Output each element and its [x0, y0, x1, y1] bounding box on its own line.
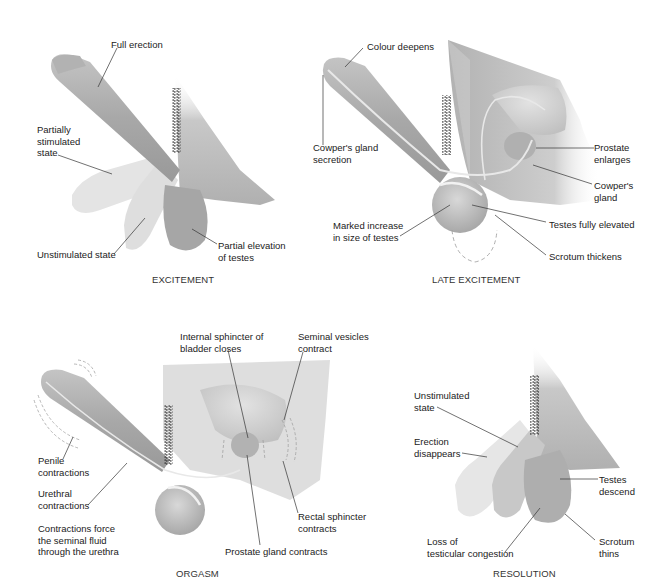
label-marked-increase-in-size-of-testes: Marked increase in size of testes — [333, 220, 403, 243]
label-cowpers-gland: Cowper's gland — [594, 180, 633, 203]
anatomy-artwork — [0, 0, 655, 580]
label-cowpers-gland-secretion: Cowper's gland secretion — [313, 142, 378, 165]
label-scrotum-thickens: Scrotum thickens — [549, 251, 622, 263]
label-testes-descend: Testes descend — [599, 474, 635, 497]
label-scrotum-thins: Scrotum thins — [599, 536, 634, 559]
label-prostate-enlarges: Prostate enlarges — [594, 142, 630, 165]
panel-title-orgasm: ORGASM — [176, 568, 219, 579]
panel-title-resolution: RESOLUTION — [493, 568, 556, 579]
label-penile-contractions: Penile contractions — [38, 455, 89, 478]
label-seminal-vesicles-contract: Seminal vesicles contract — [298, 331, 369, 354]
label-colour-deepens: Colour deepens — [367, 41, 434, 53]
label-unstimulated-state-resolution: Unstimulated state — [414, 390, 469, 413]
label-testes-fully-elevated: Testes fully elevated — [549, 219, 635, 231]
label-prostate-gland-contracts: Prostate gland contracts — [225, 546, 327, 558]
label-rectal-sphincter-contracts: Rectal sphincter contracts — [298, 511, 366, 534]
label-full-erection: Full erection — [111, 39, 163, 51]
label-loss-of-testicular-congestion: Loss of testicular congestion — [427, 536, 514, 559]
label-erection-disappears: Erection disappears — [414, 436, 460, 459]
panel-title-late-excitement: LATE EXCITEMENT — [432, 274, 520, 285]
panel-title-excitement: EXCITEMENT — [152, 274, 214, 285]
resolution-illustration — [437, 345, 620, 552]
orgasm-illustration — [34, 350, 330, 545]
label-contractions-force-seminal-fluid: Contractions force the seminal fluid thr… — [38, 523, 119, 558]
label-internal-sphincter-of-bladder-closes: Internal sphincter of bladder closes — [180, 331, 263, 354]
excitement-illustration — [51, 48, 275, 254]
label-unstimulated-state: Unstimulated state — [37, 249, 116, 261]
label-partial-elevation-of-testes: Partial elevation of testes — [218, 240, 286, 263]
label-partially-stimulated-state: Partially stimulated state — [37, 124, 80, 159]
label-urethral-contractions: Urethral contractions — [38, 488, 89, 511]
